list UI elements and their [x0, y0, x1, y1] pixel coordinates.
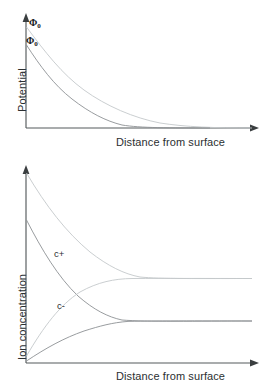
potential-x-axis-label: Distance from surface [116, 136, 225, 148]
phi-zero-lower-label: Φ0 [26, 35, 38, 46]
c-minus-curve-tag: c- [57, 300, 65, 311]
ion-x-axis-arrow-icon [250, 360, 259, 367]
ion-plot-svg [0, 158, 270, 390]
potential-y-axis-label: Potential [16, 68, 28, 112]
c-plus-curve-tag: c+ [54, 248, 64, 259]
potential-panel: Potential Distance from surface Φ0 Φ0 [0, 0, 270, 158]
potential-curve-slow-decay [27, 27, 253, 128]
ion-y-axis-arrow-icon [23, 165, 30, 174]
ion-x-axis-label: Distance from surface [116, 370, 225, 382]
ion-y-axis-label: Ion concentration [16, 274, 28, 360]
ion-curve-cminus-dark [27, 321, 253, 361]
phi-zero-upper-label: Φ0 [29, 17, 41, 28]
phi-zero-upper-subscript: 0 [37, 22, 41, 30]
phi-zero-lower-subscript: 0 [34, 40, 38, 48]
double-layer-figure: Potential Distance from surface Φ0 Φ0 [0, 0, 270, 390]
ion-curve-cplus-light [27, 173, 253, 279]
potential-curve-fast-decay [27, 45, 211, 128]
ion-curve-cminus-light [27, 278, 253, 356]
ion-concentration-panel: Ion concentration Distance from surface … [0, 158, 270, 390]
